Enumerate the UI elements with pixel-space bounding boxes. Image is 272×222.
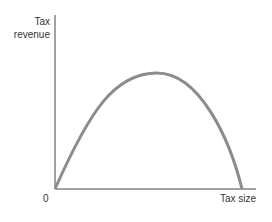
x-axis-label: Tax size — [220, 193, 256, 204]
chart-plot — [0, 0, 272, 222]
laffer-curve — [55, 73, 242, 189]
origin-label: 0 — [43, 193, 49, 204]
